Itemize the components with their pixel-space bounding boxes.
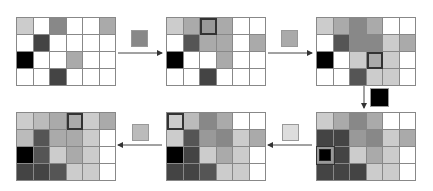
color-swatch-2 xyxy=(281,30,298,47)
grid-cell xyxy=(17,35,34,52)
grid-cell xyxy=(67,69,84,86)
grid-cell xyxy=(167,147,184,164)
grid-cell xyxy=(334,69,351,86)
grid-cell xyxy=(34,113,51,130)
grid-cell xyxy=(17,52,34,69)
grid-cell xyxy=(233,130,250,147)
highlighted-grid-cell xyxy=(67,113,84,130)
grid-cell xyxy=(317,69,334,86)
grid-cell xyxy=(334,18,351,35)
grid-cell xyxy=(350,164,367,181)
grid-cell xyxy=(250,164,267,181)
grid-cell xyxy=(217,35,234,52)
grid-cell xyxy=(50,35,67,52)
color-swatch-1 xyxy=(131,30,148,47)
grid-step-2 xyxy=(166,17,266,86)
grid-cell xyxy=(184,35,201,52)
grid-cell xyxy=(250,52,267,69)
grid-cell xyxy=(200,35,217,52)
grid-cell xyxy=(250,147,267,164)
grid-cell xyxy=(400,18,417,35)
grid-cell xyxy=(217,69,234,86)
grid-cell xyxy=(34,130,51,147)
grid-cell xyxy=(383,69,400,86)
grid-cell xyxy=(250,69,267,86)
grid-cell xyxy=(233,164,250,181)
grid-cell xyxy=(34,18,51,35)
grid-cell xyxy=(17,113,34,130)
grid-cell xyxy=(250,35,267,52)
grid-step-6 xyxy=(16,112,116,181)
grid-cell xyxy=(400,147,417,164)
grid-cell xyxy=(67,18,84,35)
highlighted-grid-cell xyxy=(200,18,217,35)
grid-cell xyxy=(334,130,351,147)
grid-cell xyxy=(350,35,367,52)
grid-cell xyxy=(184,18,201,35)
grid-cell xyxy=(184,113,201,130)
grid-cell xyxy=(367,147,384,164)
grid-cell xyxy=(100,130,117,147)
grid-cell xyxy=(100,69,117,86)
grid-cell xyxy=(17,18,34,35)
grid-cell xyxy=(200,164,217,181)
grid-cell xyxy=(367,18,384,35)
grid-cell xyxy=(83,113,100,130)
grid-cell xyxy=(167,69,184,86)
grid-cell xyxy=(17,130,34,147)
highlighted-grid-cell xyxy=(367,52,384,69)
grid-cell xyxy=(350,147,367,164)
grid-step-1 xyxy=(16,17,116,86)
grid-cell xyxy=(317,113,334,130)
grid-cell xyxy=(184,164,201,181)
color-swatch-3 xyxy=(370,88,389,107)
grid-cell xyxy=(317,164,334,181)
grid-cell xyxy=(383,147,400,164)
grid-cell xyxy=(334,113,351,130)
grid-cell xyxy=(200,147,217,164)
grid-cell xyxy=(17,69,34,86)
grid-cell xyxy=(350,113,367,130)
grid-cell xyxy=(317,130,334,147)
grid-cell xyxy=(200,113,217,130)
grid-cell xyxy=(400,52,417,69)
grid-cell xyxy=(34,52,51,69)
grid-cell xyxy=(217,52,234,69)
grid-cell xyxy=(17,147,34,164)
grid-cell xyxy=(250,18,267,35)
grid-cell xyxy=(350,69,367,86)
grid-cell xyxy=(50,130,67,147)
grid-cell xyxy=(83,147,100,164)
grid-cell xyxy=(67,147,84,164)
grid-cell xyxy=(167,164,184,181)
grid-cell xyxy=(233,18,250,35)
grid-cell xyxy=(50,52,67,69)
grid-cell xyxy=(200,130,217,147)
grid-cell xyxy=(67,130,84,147)
grid-cell xyxy=(233,69,250,86)
grid-cell xyxy=(383,18,400,35)
grid-cell xyxy=(233,113,250,130)
grid-cell xyxy=(334,52,351,69)
grid-cell xyxy=(400,35,417,52)
grid-cell xyxy=(400,164,417,181)
grid-cell xyxy=(350,18,367,35)
grid-cell xyxy=(83,18,100,35)
grid-step-3 xyxy=(316,17,416,86)
grid-cell xyxy=(34,35,51,52)
grid-cell xyxy=(250,130,267,147)
grid-cell xyxy=(200,69,217,86)
grid-cell xyxy=(334,147,351,164)
grid-cell xyxy=(383,35,400,52)
grid-cell xyxy=(400,130,417,147)
grid-cell xyxy=(184,69,201,86)
grid-cell xyxy=(383,52,400,69)
grid-cell xyxy=(217,113,234,130)
grid-cell xyxy=(67,35,84,52)
grid-cell xyxy=(233,147,250,164)
grid-cell xyxy=(334,164,351,181)
grid-cell xyxy=(50,147,67,164)
grid-cell xyxy=(100,52,117,69)
grid-cell xyxy=(100,147,117,164)
grid-cell xyxy=(167,35,184,52)
